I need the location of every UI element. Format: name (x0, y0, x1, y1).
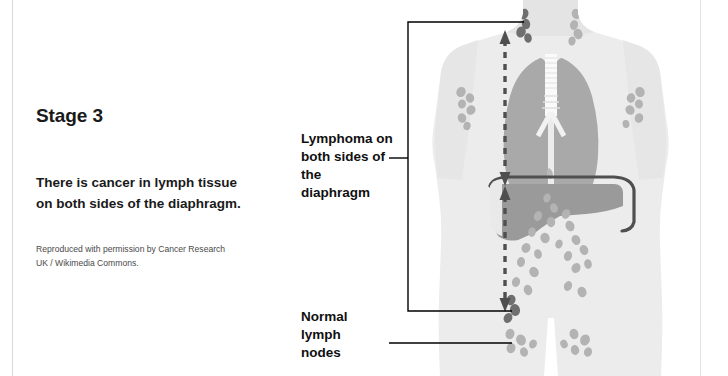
callout-label-lymphoma: Lymphoma on both sides of the diaphragm (301, 130, 393, 202)
slide-canvas: Stage 3 There is cancer in lymph tissue … (0, 0, 728, 376)
text-column: Stage 3 (36, 106, 266, 127)
slide-left-border (12, 0, 13, 376)
page-title: Stage 3 (36, 106, 266, 127)
anatomy-illustration (418, 0, 708, 376)
stage-description: There is cancer in lymph tissue on both … (36, 173, 244, 214)
attribution-credit: Reproduced with permission by Cancer Res… (36, 243, 226, 271)
callout-label-normal-lymph-nodes: Normal lymph nodes (301, 308, 383, 362)
